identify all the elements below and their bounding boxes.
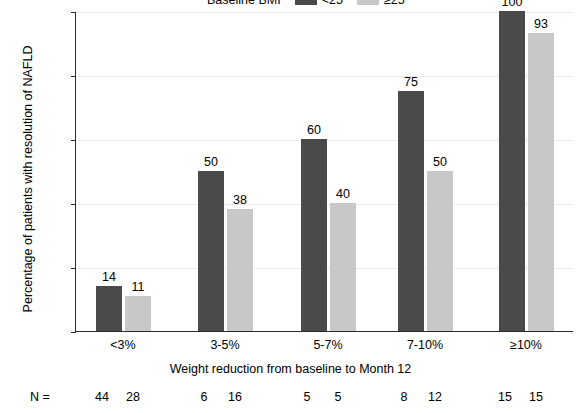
legend-title: Baseline BMI xyxy=(207,0,281,7)
legend-item-series1: <25 xyxy=(295,0,343,7)
bar-series1 xyxy=(499,11,525,331)
x-tick-label: ≥10% xyxy=(481,338,571,352)
bar-series2 xyxy=(125,296,151,331)
n-value-series1: 5 xyxy=(292,390,322,404)
n-value-series2: 16 xyxy=(220,390,250,404)
n-value-series1: 8 xyxy=(389,390,419,404)
plot-area: 020406080100141150386040755010093 xyxy=(75,12,573,332)
bar-group: 6040 xyxy=(301,12,359,331)
bar-group: 10093 xyxy=(499,12,557,331)
bar-value-label: 50 xyxy=(420,156,460,169)
n-value-series2: 12 xyxy=(420,390,450,404)
y-tick-mark xyxy=(71,12,76,13)
bar-series2 xyxy=(427,171,453,331)
bar-value-label: 38 xyxy=(220,194,260,207)
bar-value-label: 40 xyxy=(323,188,363,201)
legend-swatch-series1 xyxy=(295,0,317,5)
bar-group: 7550 xyxy=(398,12,456,331)
x-tick-label: <3% xyxy=(78,338,168,352)
bar-value-label: 100 xyxy=(492,0,532,9)
legend-label-series2: ≥25 xyxy=(384,0,405,7)
bar-value-label: 11 xyxy=(118,281,158,294)
legend-item-series2: ≥25 xyxy=(357,0,405,7)
bar-group: 5038 xyxy=(198,12,256,331)
y-tick-mark xyxy=(71,268,76,269)
bar-value-label: 93 xyxy=(521,18,561,31)
x-tick-label: 3-5% xyxy=(180,338,270,352)
y-tick-mark xyxy=(71,204,76,205)
n-value-series1: 44 xyxy=(87,390,117,404)
bar-series2 xyxy=(227,209,253,331)
bar-series2 xyxy=(528,33,554,331)
bar-series2 xyxy=(330,203,356,331)
y-axis-title: Percentage of patients with resolution o… xyxy=(21,9,35,349)
n-value-series2: 15 xyxy=(521,390,551,404)
n-value-series1: 15 xyxy=(490,390,520,404)
y-tick-mark xyxy=(71,332,76,333)
legend-swatch-series2 xyxy=(357,0,379,5)
x-tick-label: 7-10% xyxy=(380,338,470,352)
x-axis-title: Weight reduction from baseline to Month … xyxy=(0,362,581,376)
bar-value-label: 50 xyxy=(191,156,231,169)
bar-series1 xyxy=(398,91,424,331)
bar-group: 1411 xyxy=(96,12,154,331)
bar-chart: Baseline BMI <25 ≥25 Percentage of patie… xyxy=(0,0,581,413)
legend-label-series1: <25 xyxy=(322,0,343,7)
bar-value-label: 75 xyxy=(391,76,431,89)
y-tick-mark xyxy=(71,76,76,77)
n-value-series2: 28 xyxy=(118,390,148,404)
chart-legend: Baseline BMI <25 ≥25 xyxy=(207,0,419,7)
n-value-series1: 6 xyxy=(189,390,219,404)
n-value-series2: 5 xyxy=(323,390,353,404)
bar-series1 xyxy=(301,139,327,331)
bar-value-label: 60 xyxy=(294,124,334,137)
y-tick-mark xyxy=(71,140,76,141)
x-tick-label: 5-7% xyxy=(283,338,373,352)
n-row-label: N = xyxy=(30,390,50,404)
